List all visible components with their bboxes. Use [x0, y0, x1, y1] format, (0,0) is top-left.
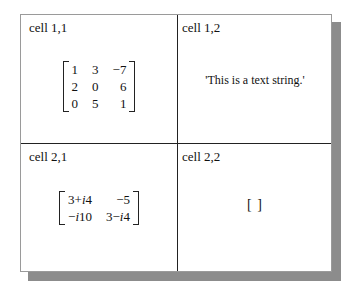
- text-string: 'This is a text string.': [178, 73, 332, 88]
- cell-2-1: cell 2,1 3+i4 −5 −i10 3−i4: [21, 144, 177, 272]
- empty-array-value: [ ]: [247, 197, 263, 213]
- matrix-entry: 2: [69, 78, 86, 95]
- matrix-entry: 1: [69, 61, 86, 78]
- matrix-entry: −i10: [65, 208, 99, 225]
- matrix-entry: 3−i4: [99, 208, 133, 225]
- numeric-matrix: 1 3 −7 2 0 6 0 5 1: [21, 61, 177, 112]
- matrix-entry: 1: [106, 95, 130, 112]
- cell-array-diagram: cell 1,1 1 3 −7 2 0 6 0: [20, 14, 332, 272]
- cell-label: cell 1,2: [182, 20, 220, 36]
- matrix-entry: 0: [69, 95, 86, 112]
- matrix-entry: 6: [106, 78, 130, 95]
- text-string-value: 'This is a text string.': [205, 73, 304, 88]
- cell-2-2: cell 2,2 [ ]: [178, 144, 332, 272]
- matrix-entry: 3+i4: [65, 191, 99, 208]
- right-bracket: [129, 61, 135, 112]
- complex-matrix: 3+i4 −5 −i10 3−i4: [21, 191, 177, 225]
- cell-label: cell 1,1: [29, 20, 67, 36]
- matrix-entry: 5: [85, 95, 106, 112]
- matrix-entry: 0: [85, 78, 106, 95]
- right-bracket: [133, 191, 139, 225]
- cell-1-1: cell 1,1 1 3 −7 2 0 6 0: [21, 15, 177, 143]
- cell-1-2: cell 1,2 'This is a text string.': [178, 15, 332, 143]
- empty-array: [ ]: [178, 197, 332, 213]
- matrix-entry: 3: [85, 61, 106, 78]
- cell-label: cell 2,2: [182, 149, 220, 165]
- matrix-entry: −7: [106, 61, 130, 78]
- matrix-entry: −5: [99, 191, 133, 208]
- cell-label: cell 2,1: [29, 149, 67, 165]
